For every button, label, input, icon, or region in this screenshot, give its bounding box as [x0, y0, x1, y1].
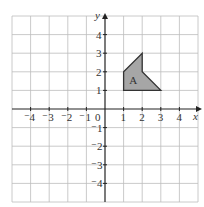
x-tick-label: ⁻3: [42, 111, 54, 123]
x-tick-label: 2: [139, 111, 145, 123]
x-axis-label: x: [192, 110, 198, 122]
x-tick-label: 1: [121, 111, 127, 123]
y-tick-label: 2: [96, 66, 102, 78]
origin-label: 0: [95, 111, 101, 123]
y-tick-label: 4: [96, 29, 102, 41]
y-tick-label: ⁻1: [91, 122, 103, 134]
x-tick-label: ⁻2: [61, 111, 73, 123]
y-axis-label: y: [94, 9, 100, 21]
coordinate-grid-diagram: A ⁻4⁻3⁻2⁻112344321⁻1⁻2⁻3⁻40xy: [0, 0, 204, 207]
y-tick-label: ⁻4: [91, 177, 103, 189]
grid-canvas: A ⁻4⁻3⁻2⁻112344321⁻1⁻2⁻3⁻40xy: [0, 0, 204, 207]
x-tick-label: 3: [158, 111, 164, 123]
x-tick-label: ⁻4: [24, 111, 36, 123]
x-tick-label: ⁻1: [79, 111, 91, 123]
shape-label: A: [129, 74, 137, 86]
y-tick-label: 1: [96, 84, 102, 96]
y-tick-label: 3: [96, 47, 102, 59]
x-tick-label: 4: [176, 111, 182, 123]
axis-labels: ⁻4⁻3⁻2⁻112344321⁻1⁻2⁻3⁻40xy: [24, 9, 198, 189]
y-tick-label: ⁻2: [91, 140, 103, 152]
y-tick-label: ⁻3: [91, 159, 103, 171]
axes: [12, 13, 202, 202]
